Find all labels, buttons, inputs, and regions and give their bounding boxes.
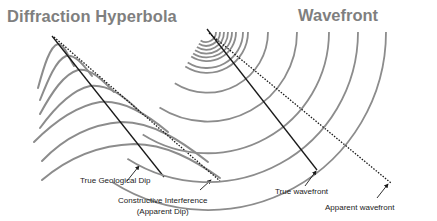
right-panel-title: Wavefront xyxy=(298,6,378,25)
true-wavefront-label: True wavefront xyxy=(275,187,328,196)
apparent-wavefront-arrow xyxy=(377,184,388,198)
true-wavefront-line xyxy=(207,29,317,170)
constructive-interference-label: Constructive Interference (Apparent Dip) xyxy=(118,195,207,217)
diagram-canvas xyxy=(0,0,437,221)
wavefront-arc xyxy=(127,32,358,182)
true-wavefront-arrow xyxy=(305,171,316,186)
true-geological-dip-label: True Geological Dip xyxy=(80,176,150,185)
hyperbola-5 xyxy=(34,102,168,142)
wavefront-arc xyxy=(143,32,329,153)
apparent-wavefront-label: Apparent wavefront xyxy=(325,203,394,212)
constructive-interference-label-line1: Constructive Interference xyxy=(118,195,207,206)
apparent-wavefront-dotted-line xyxy=(209,33,391,183)
left-panel xyxy=(34,36,220,190)
true-geological-dip-line xyxy=(52,36,164,177)
right-panel xyxy=(113,29,391,210)
constructive-interference-label-line2: (Apparent Dip) xyxy=(118,206,207,217)
left-panel-title: Diffraction Hyperbola xyxy=(7,7,177,26)
diagram-stage: Diffraction Hyperbola Wavefront True Geo… xyxy=(0,0,437,221)
